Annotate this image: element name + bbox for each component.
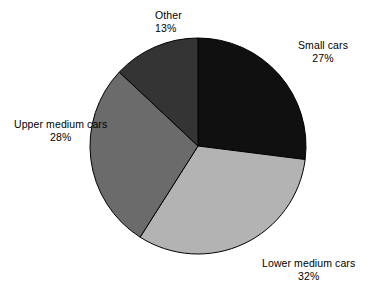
pie-label-lower-medium-cars: Lower medium cars 32% — [262, 257, 355, 283]
pie-label-upper-medium-cars: Upper medium cars 28% — [14, 118, 107, 144]
pie-label-lower-medium-cars-value: 32% — [262, 270, 355, 283]
pie-label-other-name: Other — [155, 9, 182, 22]
pie-label-upper-medium-cars-value: 28% — [14, 131, 107, 144]
pie-label-small-cars-value: 27% — [298, 52, 348, 65]
pie-label-other-value: 13% — [155, 22, 182, 35]
pie-slice-small-cars[interactable] — [198, 38, 306, 160]
pie-chart: Small cars 27% Lower medium cars 32% Upp… — [0, 0, 384, 295]
pie-label-lower-medium-cars-name: Lower medium cars — [262, 257, 355, 270]
pie-label-small-cars-name: Small cars — [298, 39, 348, 52]
pie-slices — [90, 38, 306, 254]
pie-label-upper-medium-cars-name: Upper medium cars — [14, 118, 107, 131]
pie-label-small-cars: Small cars 27% — [298, 39, 348, 65]
pie-label-other: Other 13% — [155, 9, 182, 35]
